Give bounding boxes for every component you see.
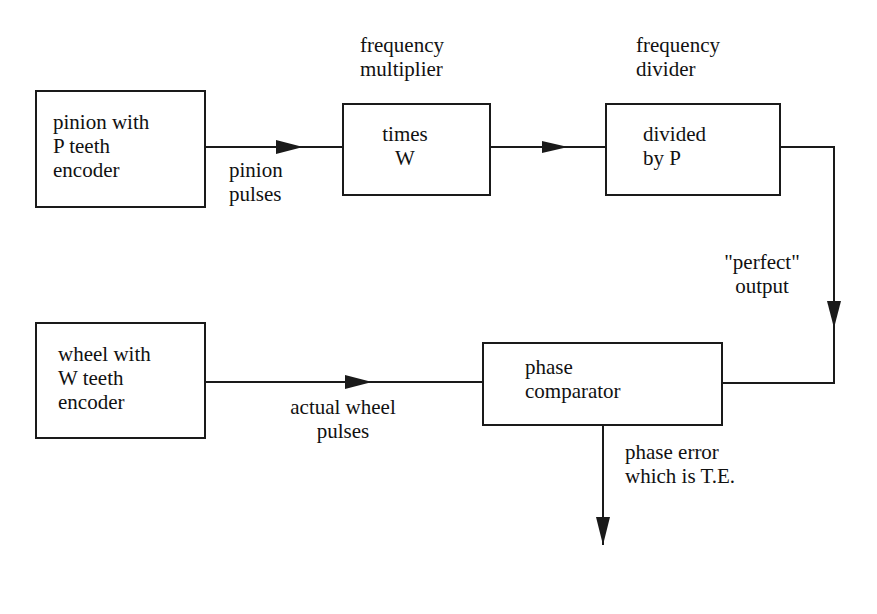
divider-label: divided by P [643,122,706,170]
arrow-down-icon [596,517,610,545]
arrow-right-icon [345,375,372,389]
phase-error-label: phase error which is T.E. [625,440,735,488]
frequency-divider-title: frequency divider [636,33,720,81]
actual-wheel-pulses-label: actual wheel pulses [268,395,418,443]
pinion-pulses-label: pinion pulses [229,158,283,206]
perfect-output-label: "perfect" output [712,250,812,298]
arrow-right-icon [542,141,568,153]
wheel-encoder-label: wheel with W teeth encoder [58,342,151,414]
frequency-multiplier-title: frequency multiplier [360,33,444,81]
arrow-down-icon [827,301,841,328]
pinion-encoder-label: pinion with P teeth encoder [53,110,149,182]
multiplier-label: times W [370,122,440,170]
arrow-right-icon [276,140,303,154]
phase-comparator-label: phase comparator [525,355,621,403]
